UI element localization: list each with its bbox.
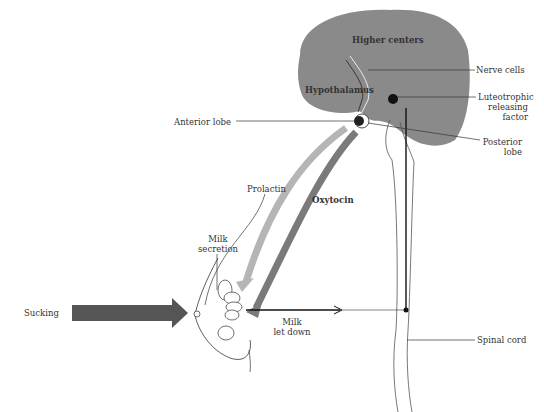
- label-spinal-cord: Spinal cord: [477, 335, 526, 345]
- sucking-arrow-body: [72, 305, 174, 321]
- mammary-lobules: [218, 280, 242, 340]
- label-nerve-cells: Nerve cells: [476, 65, 525, 75]
- spinal-cord-outline-left: [386, 120, 398, 412]
- label-milk-letdown-line1: Milk: [270, 317, 314, 327]
- label-anterior-lobe: Anterior lobe: [174, 117, 231, 127]
- label-oxytocin: Oxytocin: [312, 195, 354, 205]
- label-milk-letdown: Milk let down: [270, 317, 314, 337]
- label-luteotrophic-line3: factor: [478, 112, 528, 122]
- label-posterior-lobe: Posterior lobe: [480, 137, 522, 157]
- breast-lower: [249, 350, 250, 372]
- label-hypothalamus: Hypothalamus: [305, 85, 374, 95]
- label-posterior-line1: Posterior: [480, 137, 522, 147]
- label-milk-letdown-line2: let down: [270, 327, 314, 337]
- label-milk-secretion: Milk secretion: [196, 234, 240, 254]
- label-milk-secretion-line1: Milk: [196, 234, 240, 244]
- prolactin-arrowhead: [236, 278, 254, 292]
- label-sucking: Sucking: [24, 308, 59, 318]
- spinal-cord-outline-right: [400, 122, 414, 412]
- label-higher-centers: Higher centers: [352, 35, 424, 45]
- luteotrophic-nucleus-dot: [388, 94, 398, 104]
- label-milk-secretion-line2: secretion: [196, 244, 240, 254]
- nipple: [194, 311, 200, 317]
- anterior-lobe-dot: [354, 116, 364, 126]
- label-posterior-line2: lobe: [480, 147, 522, 157]
- label-luteotrophic: Luteotrophic releasing factor: [478, 92, 528, 122]
- breast-outline: [195, 258, 250, 359]
- label-luteotrophic-line2: releasing: [478, 102, 528, 112]
- diagram-canvas: [0, 0, 544, 412]
- spinal-synapse-dot: [404, 308, 409, 313]
- label-luteotrophic-line1: Luteotrophic: [478, 92, 528, 102]
- sucking-arrowhead: [172, 298, 188, 328]
- label-prolactin: Prolactin: [247, 184, 286, 194]
